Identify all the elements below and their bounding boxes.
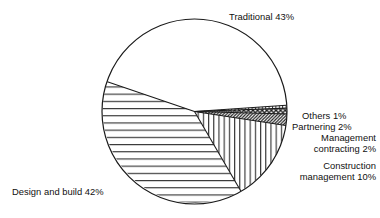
pie-label-others: Others 1% bbox=[302, 110, 346, 121]
pie-chart: Traditional 43% Others 1% Partnering 2% … bbox=[0, 0, 380, 218]
pie-label-construction-management-line1: Construction bbox=[323, 160, 376, 171]
pie-label-management-contracting-line1: Management bbox=[321, 132, 376, 143]
pie-label-management-contracting-line2: contracting 2% bbox=[314, 143, 376, 154]
pie-label-construction-management-line2: management 10% bbox=[300, 171, 376, 182]
pie-label-design-and-build: Design and build 42% bbox=[12, 186, 104, 197]
pie-label-traditional: Traditional 43% bbox=[229, 11, 294, 22]
pie-label-construction-management: Constructionmanagement 10% bbox=[284, 160, 376, 183]
pie-label-partnering: Partnering 2% bbox=[292, 121, 352, 132]
pie-label-management-contracting: Managementcontracting 2% bbox=[286, 132, 376, 155]
